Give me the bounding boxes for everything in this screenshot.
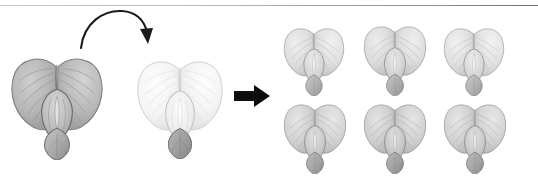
curved-arrow-icon [78, 8, 156, 50]
offspring-flower-4 [283, 100, 347, 174]
offspring-flower-5-illustration [363, 100, 427, 174]
offspring-flower-2-illustration [363, 22, 427, 96]
offspring-flower-1-illustration [283, 24, 345, 96]
parent-flower-2 [136, 55, 224, 159]
top-divider-rule [0, 5, 538, 6]
offspring-flower-6-illustration [443, 100, 507, 174]
offspring-flower-6 [443, 100, 507, 174]
result-arrow [234, 84, 270, 108]
pollination-arrow [78, 8, 156, 50]
offspring-flower-3 [443, 24, 505, 96]
offspring-flower-1 [283, 24, 345, 96]
offspring-flower-4-illustration [283, 100, 347, 174]
offspring-flower-3-illustration [443, 24, 505, 96]
block-arrow-right-icon [234, 84, 270, 108]
parent-flower-1-illustration [10, 52, 104, 160]
pea-flower-cross-figure [0, 0, 538, 181]
offspring-flower-5 [363, 100, 427, 174]
parent-flower-1 [10, 52, 104, 160]
offspring-flower-2 [363, 22, 427, 96]
parent-flower-2-illustration [136, 55, 224, 159]
